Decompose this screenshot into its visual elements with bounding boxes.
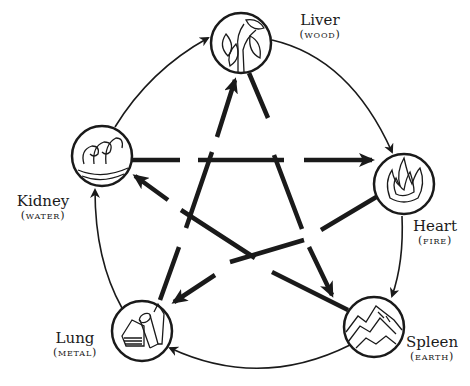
element-name: (water) <box>8 210 78 223</box>
label-kidney: Kidney (water) <box>8 193 78 223</box>
organ-name: Heart <box>400 218 470 235</box>
organ-name: Kidney <box>8 193 78 210</box>
arrow-spleen-to-kidney <box>135 176 348 310</box>
arrow-lung-to-kidney <box>95 190 122 308</box>
controlling-cycle <box>132 73 378 310</box>
organ-name: Spleen <box>392 334 470 351</box>
arrow-liver-to-heart <box>272 40 392 152</box>
arrow-heart-to-lung <box>174 196 378 302</box>
node-liver <box>211 13 271 73</box>
arrow-liver-to-spleen <box>249 73 332 295</box>
label-heart: Heart (fire) <box>400 218 470 248</box>
element-name: (fire) <box>400 235 470 248</box>
node-heart <box>374 154 434 214</box>
node-lung <box>112 301 172 361</box>
arrow-kidney-to-liver <box>115 38 208 127</box>
label-liver: Liver (wood) <box>280 12 360 42</box>
organ-name: Liver <box>280 12 360 29</box>
organ-name: Lung <box>40 330 110 347</box>
element-name: (wood) <box>280 29 360 42</box>
arrow-lung-to-liver <box>160 80 235 300</box>
element-name: (metal) <box>40 347 110 360</box>
label-spleen: Spleen (earth) <box>392 334 470 364</box>
element-name: (earth) <box>392 351 470 364</box>
node-kidney <box>72 126 132 186</box>
label-lung: Lung (metal) <box>40 330 110 360</box>
arrow-spleen-to-lung <box>170 345 350 368</box>
